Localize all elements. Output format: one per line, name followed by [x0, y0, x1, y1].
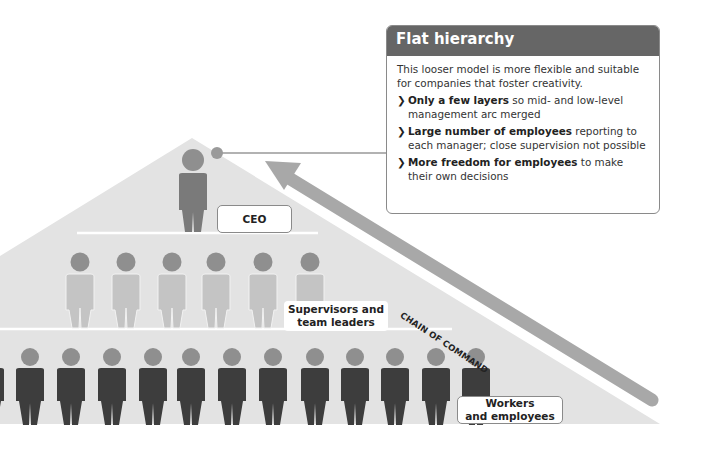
info-box-title: Flat hierarchy — [387, 26, 659, 56]
workers-label-line1: Workers — [486, 397, 535, 410]
bullet-2-bold: Large number of employees — [408, 125, 572, 137]
connector-dot — [211, 147, 223, 159]
supervisors-label: Supervisors and team leaders — [284, 301, 388, 331]
bullet-3-bold: More freedom for employees — [408, 156, 578, 168]
chevron-right-icon: ❯ — [397, 155, 406, 169]
info-box-body: This looser model is more flexible and s… — [387, 56, 659, 183]
chevron-right-icon: ❯ — [397, 93, 406, 107]
info-bullet-1: ❯ Only a few layers so mid- and low-leve… — [397, 93, 649, 121]
ceo-label: CEO — [217, 205, 292, 233]
bullet-1-bold: Only a few layers — [408, 94, 509, 106]
flat-hierarchy-info-box: Flat hierarchy This looser model is more… — [386, 25, 660, 214]
info-bullet-3: ❯ More freedom for employees to make the… — [397, 155, 649, 183]
workers-label: Workers and employees — [457, 396, 563, 424]
supervisors-label-line1: Supervisors and — [288, 303, 384, 316]
info-box-intro: This looser model is more flexible and s… — [397, 62, 649, 90]
info-bullet-2: ❯ Large number of employees reporting to… — [397, 124, 649, 152]
workers-label-line2: and employees — [465, 410, 554, 423]
chevron-right-icon: ❯ — [397, 124, 406, 138]
ceo-label-text: CEO — [243, 213, 267, 226]
supervisors-label-line2: team leaders — [297, 316, 375, 329]
